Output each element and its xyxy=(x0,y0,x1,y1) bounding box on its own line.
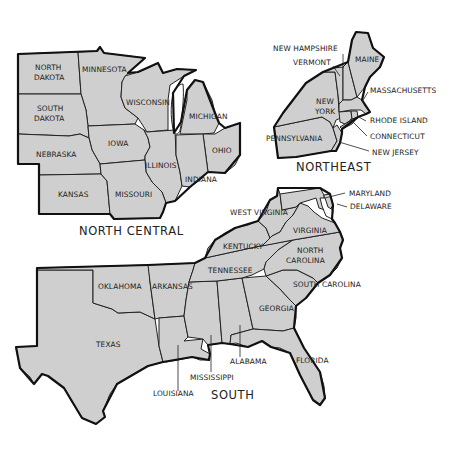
label-mississippi: MISSISSIPPI xyxy=(190,373,234,382)
label-missouri: MISSOURI xyxy=(115,190,152,199)
label-north-carolina-1: NORTH xyxy=(297,246,324,255)
label-alabama: ALABAMA xyxy=(230,357,267,366)
label-virginia: VIRGINIA xyxy=(293,226,327,235)
label-maine: MAINE xyxy=(355,55,380,64)
label-new-hampshire: NEW HAMPSHIRE xyxy=(273,44,338,53)
label-nebraska: NEBRASKA xyxy=(36,150,76,159)
label-pennsylvania: PENNSYLVANIA xyxy=(266,134,322,143)
label-kansas: KANSAS xyxy=(58,190,89,199)
label-connecticut: CONNECTICUT xyxy=(370,132,425,141)
label-massachusetts: MASSACHUSETTS xyxy=(370,86,436,95)
label-georgia: GEORGIA xyxy=(259,304,294,313)
label-iowa: IOWA xyxy=(108,139,128,148)
label-rhode-island: RHODE ISLAND xyxy=(370,116,428,125)
label-new-york-1: NEW xyxy=(316,97,334,106)
label-florida: FLORIDA xyxy=(296,356,329,365)
label-south-dakota-1: SOUTH xyxy=(37,104,64,113)
label-minnesota: MINNESOTA xyxy=(82,65,127,74)
label-wisconsin: WISCONSIN xyxy=(126,98,170,107)
label-oklahoma: OKLAHOMA xyxy=(98,282,142,291)
label-arkansas: ARKANSAS xyxy=(152,282,193,291)
label-tennessee: TENNESSEE xyxy=(207,266,253,275)
label-indiana: INDIANA xyxy=(185,175,217,184)
label-new-york-2: YORK xyxy=(314,107,335,116)
label-new-jersey: NEW JERSEY xyxy=(372,148,419,157)
label-maryland: MARYLAND xyxy=(349,189,391,198)
label-north-dakota-1: NORTH xyxy=(35,63,62,72)
label-michigan: MICHIGAN xyxy=(189,112,228,121)
label-north-dakota-2: DAKOTA xyxy=(34,73,64,82)
label-west-virginia: WEST VIRGINIA xyxy=(230,208,288,217)
label-vermont: VERMONT xyxy=(293,58,331,67)
label-kentucky: KENTUCKY xyxy=(223,242,263,251)
region-label-northeast: NORTHEAST xyxy=(296,160,372,174)
label-louisiana: LOUISIANA xyxy=(153,389,194,398)
census-region-map: NORTH DAKOTA MINNESOTA SOUTH DAKOTA WISC… xyxy=(0,0,467,449)
label-delaware: DELAWARE xyxy=(350,202,392,211)
label-texas: TEXAS xyxy=(95,340,121,349)
region-label-north-central: NORTH CENTRAL xyxy=(79,224,184,238)
region-label-south: SOUTH xyxy=(211,388,254,402)
label-south-carolina: SOUTH CAROLINA xyxy=(293,280,361,289)
label-ohio: OHIO xyxy=(212,146,232,155)
label-illinois: ILLINOIS xyxy=(145,161,177,170)
label-north-carolina-2: CAROLINA xyxy=(286,256,325,265)
label-south-dakota-2: DAKOTA xyxy=(34,114,64,123)
